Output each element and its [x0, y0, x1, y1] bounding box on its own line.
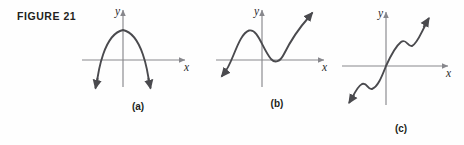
caption-b: (b) — [212, 98, 342, 109]
x-axis-label-c: x — [445, 67, 452, 79]
x-axis-label-a: x — [183, 61, 190, 73]
panel-b: y x — [212, 0, 342, 145]
graph-b: y x — [212, 0, 342, 100]
graph-c: y x — [338, 0, 464, 125]
curve-b — [224, 17, 309, 73]
curve-b-right-arrow — [307, 13, 313, 20]
caption-a: (a) — [78, 101, 198, 112]
curve-c — [352, 24, 426, 98]
y-axis-label-b: y — [253, 5, 260, 18]
x-axis-label-b: x — [321, 61, 328, 73]
caption-c: (c) — [338, 123, 464, 134]
curve-a-left-arrow — [95, 78, 97, 89]
curve-c-right-arrow — [424, 18, 430, 27]
y-axis-label-a: y — [114, 5, 121, 18]
graph-a: y x — [78, 0, 198, 100]
curve-b-left-arrow — [222, 71, 227, 77]
curve-c-left-arrow — [349, 95, 354, 103]
figure-diagram: FIGURE 21 y x — [0, 0, 464, 145]
curve-a-right-arrow — [148, 78, 150, 89]
y-axis-label-c: y — [377, 7, 384, 20]
figure-number-label: FIGURE 21 — [17, 10, 76, 22]
panel-a: y x — [78, 0, 198, 145]
